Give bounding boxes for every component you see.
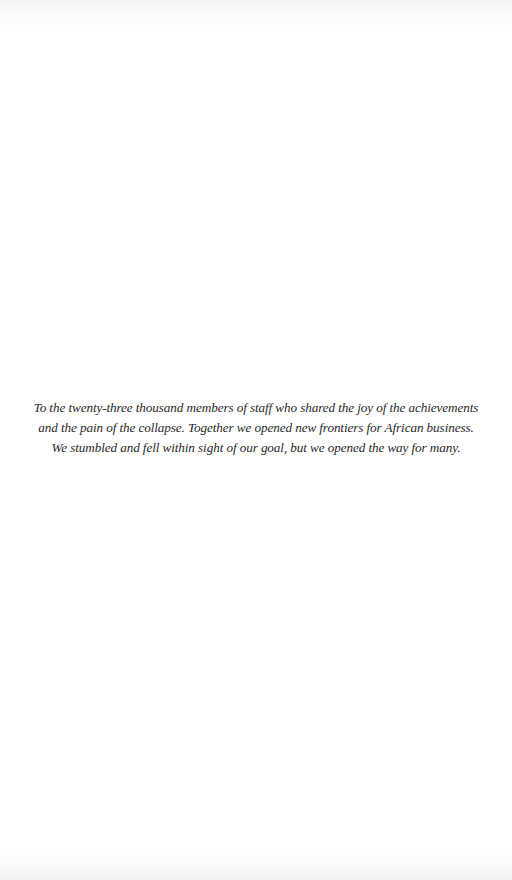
book-page: To the twenty-three thousand members of … [0,0,512,880]
dedication-line-2: and the pain of the collapse. Together w… [0,418,512,438]
dedication-line-1: To the twenty-three thousand members of … [0,398,512,418]
dedication-text: To the twenty-three thousand members of … [0,398,512,458]
dedication-line-3: We stumbled and fell within sight of our… [0,438,512,458]
